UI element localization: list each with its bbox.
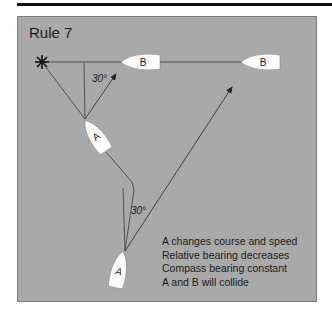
note-line: Relative bearing decreases xyxy=(162,249,297,263)
angle-label-upper: 30° xyxy=(92,73,107,84)
note-line: A and B will collide xyxy=(162,276,297,290)
north-reference-lower xyxy=(123,188,125,251)
explanation-notes: A changes course and speed Relative bear… xyxy=(162,235,297,289)
north-reference-upper xyxy=(84,62,85,119)
track-line-a xyxy=(106,152,134,251)
note-line: A changes course and speed xyxy=(162,235,297,249)
heading-arrow-lower xyxy=(125,87,232,251)
bearing-line-star xyxy=(42,62,85,119)
note-line: Compass bearing constant xyxy=(162,262,297,276)
boat-b-left-label: B xyxy=(140,57,147,68)
boat-a-upper: A xyxy=(79,116,113,155)
boat-b-right-label: B xyxy=(260,57,267,68)
angle-label-lower: 30° xyxy=(131,205,146,216)
boat-a-lower: A xyxy=(108,250,131,289)
